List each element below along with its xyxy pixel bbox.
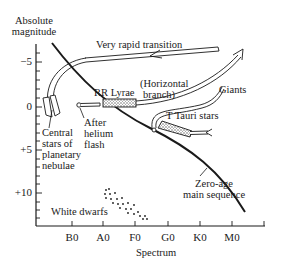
label-giants: Giants <box>219 84 246 95</box>
rr-lyrae-region <box>103 99 136 107</box>
label-very-rapid-transition: Very rapid transition <box>96 39 182 50</box>
label-zero-age-main-sequence: Zero-age main sequence <box>183 178 245 200</box>
label-rr-lyrae: RR Lyrae <box>94 87 135 98</box>
x-axis-title: Spectrum <box>136 247 176 258</box>
planetary-nebulae-track <box>43 58 86 117</box>
label-after-helium-flash: After helium flash <box>84 117 113 150</box>
x-tick-label: G0 <box>156 231 180 243</box>
hr-diagram: Absolute magnitude −5 0 +5 +10 B0 A0 F0 … <box>0 0 281 271</box>
x-ticks <box>72 221 264 226</box>
y-tick-label: 0 <box>6 100 32 112</box>
label-central-stars: Central stars of planetary nebulae <box>42 127 81 171</box>
label-horizontal-branch: (Horizontal branch) <box>140 78 188 100</box>
x-tick-label: A0 <box>91 231 115 243</box>
x-tick-label: M0 <box>220 231 244 243</box>
y-axis-title: Absolute magnitude <box>4 15 64 37</box>
y-tick-label: +5 <box>6 143 32 155</box>
x-tick-label: B0 <box>60 231 84 243</box>
x-tick-label: F0 <box>123 231 147 243</box>
after-helium-track <box>77 103 100 107</box>
zero-age-pointer <box>200 168 207 176</box>
white-dwarf-points <box>104 188 148 220</box>
label-t-tauri: T Tauri stars <box>166 110 219 121</box>
y-tick-label: −5 <box>6 55 32 67</box>
x-tick-label: K0 <box>188 231 212 243</box>
y-tick-label: +10 <box>6 186 32 198</box>
y-axis-title-line1: Absolute <box>4 15 64 26</box>
y-axis-title-line2: magnitude <box>4 26 64 37</box>
label-white-dwarfs: White dwarfs <box>51 206 108 217</box>
t-tauri-arrow <box>190 129 212 136</box>
